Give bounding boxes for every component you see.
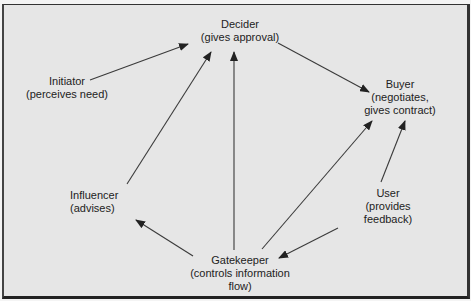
node-description-line2: gives contract) bbox=[350, 104, 450, 117]
node-user: User (provides feedback) bbox=[348, 187, 428, 226]
node-gatekeeper: Gatekeeper (controls information flow) bbox=[180, 254, 300, 293]
arrow-gatekeeper-to-influencer bbox=[136, 220, 193, 256]
arrow-user-to-buyer bbox=[381, 121, 405, 182]
node-description: (negotiates, bbox=[350, 91, 450, 104]
node-description: (gives approval) bbox=[190, 31, 290, 44]
node-role: Initiator bbox=[22, 75, 112, 88]
node-role: Influencer bbox=[70, 189, 134, 202]
node-role: Gatekeeper bbox=[180, 254, 300, 267]
node-initiator: Initiator (perceives need) bbox=[22, 75, 112, 101]
node-description: (provides bbox=[348, 200, 428, 213]
node-role: User bbox=[348, 187, 428, 200]
node-description: (advises) bbox=[70, 202, 134, 215]
node-description: (controls information bbox=[180, 267, 300, 280]
node-description-line2: feedback) bbox=[348, 213, 428, 226]
node-description: (perceives need) bbox=[22, 88, 112, 101]
node-buyer: Buyer (negotiates, gives contract) bbox=[350, 78, 450, 117]
node-influencer: Influencer (advises) bbox=[70, 189, 134, 215]
node-decider: Decider (gives approval) bbox=[190, 18, 290, 44]
node-description-line2: flow) bbox=[180, 280, 300, 293]
arrow-influencer-to-decider bbox=[127, 52, 211, 184]
arrow-gatekeeper-to-buyer bbox=[262, 121, 372, 249]
node-role: Buyer bbox=[350, 78, 450, 91]
node-role: Decider bbox=[190, 18, 290, 31]
